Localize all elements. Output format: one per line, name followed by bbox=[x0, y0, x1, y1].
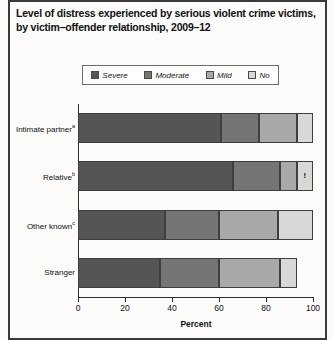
legend-swatch-icon bbox=[248, 71, 256, 79]
x-axis-tick-label: 20 bbox=[120, 303, 129, 313]
category-label-2: Other knownc bbox=[1, 220, 75, 231]
bar-segment-moderate bbox=[160, 258, 219, 288]
category-footnote-marker: b bbox=[72, 171, 75, 177]
legend-label: Mild bbox=[217, 71, 232, 80]
bar-segment-moderate bbox=[165, 210, 219, 240]
figure-container: Level of distress experienced by serious… bbox=[0, 0, 333, 340]
bar-segment-no: ! bbox=[297, 161, 313, 191]
x-axis-tick bbox=[313, 297, 314, 302]
bar-segment-mild bbox=[280, 161, 296, 191]
stacked-bar: ! bbox=[78, 161, 313, 191]
legend-item-no: No bbox=[248, 71, 269, 80]
x-axis-tick-label: 100 bbox=[306, 303, 320, 313]
legend-swatch-icon bbox=[206, 71, 214, 79]
bar-segment-no bbox=[280, 258, 296, 288]
x-axis-tick bbox=[125, 297, 126, 302]
bar-segment-no bbox=[278, 210, 313, 240]
legend-swatch-icon bbox=[91, 71, 99, 79]
caution-marker: ! bbox=[303, 172, 306, 180]
x-axis-tick bbox=[219, 297, 220, 302]
page-rule-top bbox=[8, 0, 327, 2]
category-footnote-marker: c bbox=[72, 220, 75, 226]
bar-segment-mild bbox=[219, 258, 280, 288]
legend-label: No bbox=[259, 71, 269, 80]
bar-segment-mild bbox=[219, 210, 278, 240]
x-axis-tick-label: 0 bbox=[76, 303, 81, 313]
stacked-bar bbox=[78, 210, 313, 240]
chart-title: Level of distress experienced by serious… bbox=[16, 7, 316, 34]
chart-legend: SevereModerateMildNo bbox=[82, 65, 279, 85]
x-axis-tick bbox=[78, 297, 79, 302]
legend-item-moderate: Moderate bbox=[144, 71, 189, 80]
legend-item-mild: Mild bbox=[206, 71, 232, 80]
x-axis-tick-label: 80 bbox=[261, 303, 270, 313]
legend-label: Severe bbox=[102, 71, 127, 80]
page-rule-left bbox=[8, 0, 10, 340]
bar-segment-severe bbox=[78, 258, 160, 288]
category-footnote-marker: a bbox=[72, 123, 75, 129]
bar-segment-severe bbox=[78, 161, 233, 191]
category-label-3: Stranger bbox=[1, 268, 75, 277]
x-axis-line bbox=[78, 297, 314, 298]
category-label-1: Relativeb bbox=[1, 171, 75, 182]
bar-segment-severe bbox=[78, 210, 165, 240]
bar-segment-mild bbox=[259, 113, 297, 143]
legend-label: Moderate bbox=[155, 71, 189, 80]
x-axis-tick-label: 60 bbox=[214, 303, 223, 313]
page-rule-right bbox=[325, 0, 327, 340]
bar-segment-moderate bbox=[221, 113, 259, 143]
category-label-0: Intimate partnera bbox=[1, 123, 75, 134]
bar-segment-severe bbox=[78, 113, 221, 143]
bar-segment-no bbox=[297, 113, 313, 143]
bar-segment-moderate bbox=[233, 161, 280, 191]
stacked-bar bbox=[78, 113, 313, 143]
x-axis-tick bbox=[266, 297, 267, 302]
x-axis-label: Percent bbox=[78, 319, 314, 329]
legend-item-severe: Severe bbox=[91, 71, 127, 80]
x-axis-tick-label: 40 bbox=[167, 303, 176, 313]
legend-swatch-icon bbox=[144, 71, 152, 79]
x-axis-tick bbox=[172, 297, 173, 302]
stacked-bar bbox=[78, 258, 313, 288]
